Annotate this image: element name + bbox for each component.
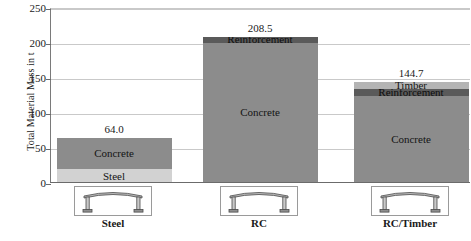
gridline-250 bbox=[51, 9, 470, 10]
category-icon-box bbox=[220, 186, 298, 216]
bar-total-label: 144.7 bbox=[354, 68, 469, 82]
portal-frame-icon bbox=[224, 188, 294, 214]
bar-total-label: 208.5 bbox=[203, 23, 318, 37]
stacked-bar-chart: Total Material Mass in t 050100150200250… bbox=[0, 0, 471, 241]
y-axis-tick-labels: 050100150200250 bbox=[16, 0, 46, 241]
bar-segment-label: Concrete bbox=[94, 148, 134, 159]
x-axis-category-rc-timber[interactable]: RC/Timber bbox=[371, 186, 449, 229]
plot-area: 64.0ConcreteSteel208.5ReinforcementConcr… bbox=[50, 8, 470, 183]
bar-total-label: 64.0 bbox=[57, 124, 172, 138]
bar-segment-concrete[interactable]: Concrete bbox=[354, 96, 469, 183]
bar-segment-label: Concrete bbox=[240, 107, 280, 118]
bar-rc-timber[interactable]: 144.7TimberReinforcementConcrete bbox=[354, 82, 469, 183]
bar-segment-concrete[interactable]: Concrete bbox=[57, 138, 172, 169]
bar-segment-label: Timber bbox=[395, 82, 427, 90]
bar-segment-timber[interactable]: Timber bbox=[354, 82, 469, 90]
y-tick-label-150: 150 bbox=[16, 73, 46, 84]
y-tick-mark-0 bbox=[46, 184, 51, 185]
portal-frame-icon bbox=[375, 188, 445, 214]
y-tick-label-100: 100 bbox=[16, 108, 46, 119]
bar-rc[interactable]: 208.5ReinforcementConcrete bbox=[203, 37, 318, 183]
bar-segment-label: Steel bbox=[103, 171, 125, 182]
bar-segment-concrete[interactable]: Concrete bbox=[203, 43, 318, 183]
bar-steel[interactable]: 64.0ConcreteSteel bbox=[57, 138, 172, 183]
bar-segment-steel[interactable]: Steel bbox=[57, 169, 172, 183]
y-tick-label-0: 0 bbox=[16, 178, 46, 189]
x-axis-category-rc[interactable]: RC bbox=[220, 186, 298, 229]
category-label: RC/Timber bbox=[371, 217, 449, 229]
y-tick-label-50: 50 bbox=[16, 143, 46, 154]
category-label: RC bbox=[220, 217, 298, 229]
y-tick-label-200: 200 bbox=[16, 38, 46, 49]
y-tick-mark-200 bbox=[46, 44, 51, 45]
x-axis-line bbox=[50, 182, 470, 183]
category-icon-box bbox=[74, 186, 152, 216]
bar-segment-label: Concrete bbox=[391, 134, 431, 145]
y-tick-mark-100 bbox=[46, 114, 51, 115]
portal-frame-icon bbox=[78, 188, 148, 214]
category-icon-box bbox=[371, 186, 449, 216]
y-tick-mark-150 bbox=[46, 79, 51, 80]
y-tick-mark-250 bbox=[46, 9, 51, 10]
category-label: Steel bbox=[74, 217, 152, 229]
y-tick-label-250: 250 bbox=[16, 3, 46, 14]
y-tick-mark-50 bbox=[46, 149, 51, 150]
x-axis-category-steel[interactable]: Steel bbox=[74, 186, 152, 229]
